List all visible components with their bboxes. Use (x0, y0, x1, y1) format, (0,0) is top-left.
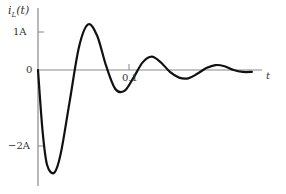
tick-label-0.1: 0.1 (122, 72, 138, 83)
y-axis-label: iL(t) (8, 4, 29, 19)
tick-label-1A: 1A (13, 26, 27, 37)
tick-label-0: 0 (26, 64, 32, 75)
chart-canvas (0, 0, 286, 194)
current-curve (38, 24, 252, 173)
tick-label-m2A: −2A (8, 140, 30, 151)
x-axis-label: t (266, 70, 270, 81)
